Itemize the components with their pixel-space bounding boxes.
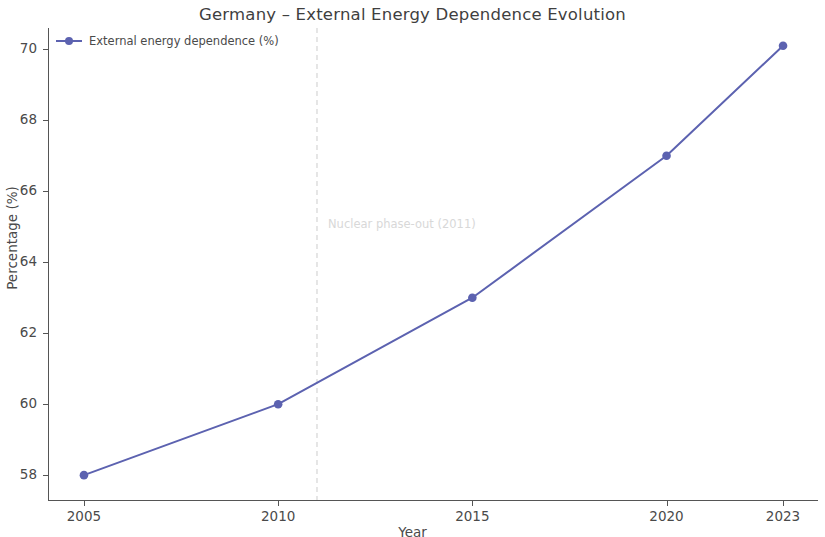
legend-marker-icon <box>56 35 82 47</box>
series-data-point <box>274 400 283 409</box>
series-data-point <box>662 151 671 160</box>
series-data-point <box>80 471 89 480</box>
series-data-point <box>468 293 477 302</box>
series-line <box>84 46 783 475</box>
legend-item-label: External energy dependence (%) <box>89 34 279 48</box>
event-annotation-label: Nuclear phase-out (2011) <box>328 217 476 231</box>
series-point-group <box>80 41 788 479</box>
series-line-group <box>84 46 783 475</box>
chart-legend: External energy dependence (%) <box>52 33 283 49</box>
series-data-point <box>779 41 788 50</box>
chart-figure: Germany – External Energy Dependence Evo… <box>0 0 825 537</box>
plot-series-layer <box>0 0 825 537</box>
